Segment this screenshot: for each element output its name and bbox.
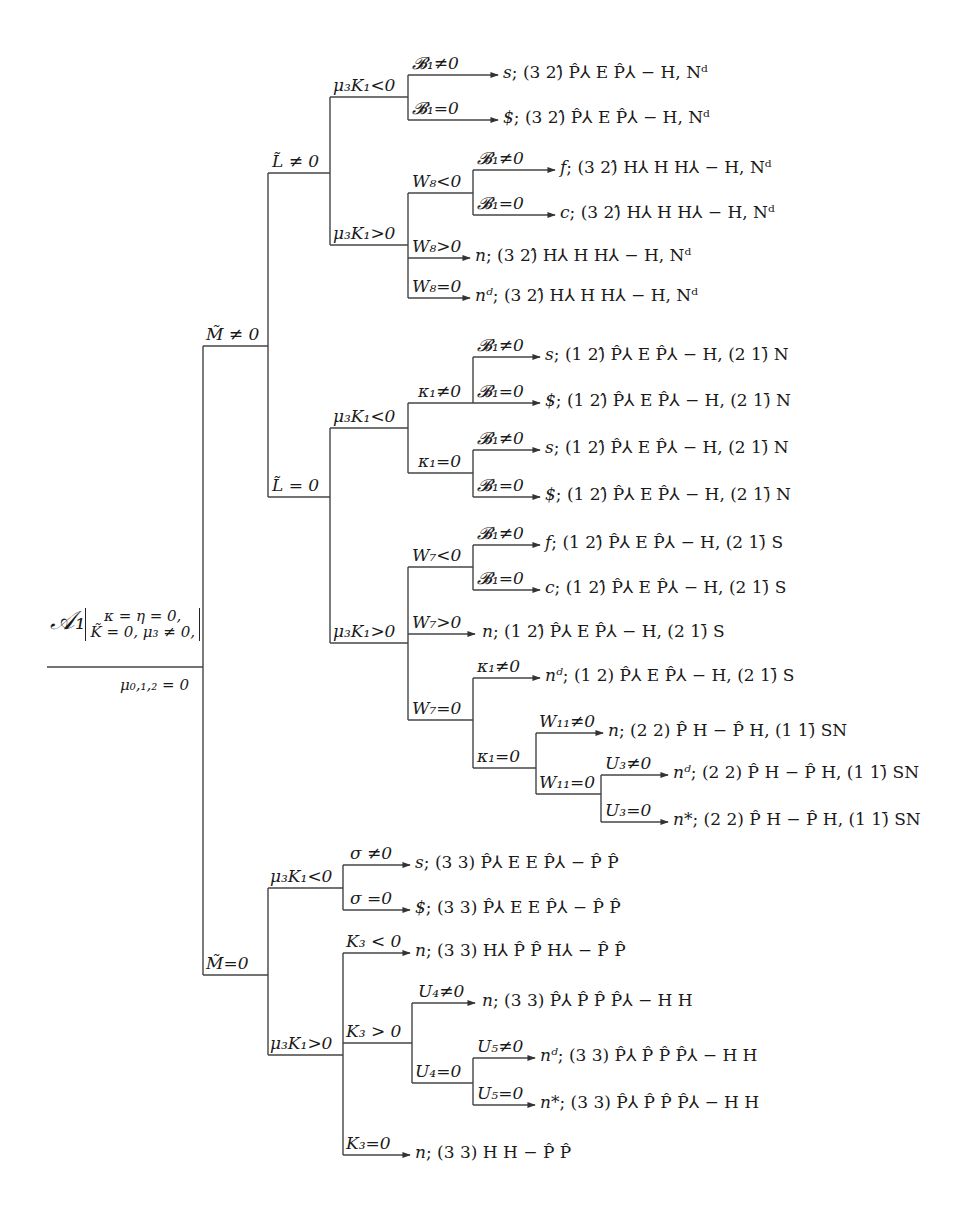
branch-w11-eq0: W₁₁=0 xyxy=(539,774,595,794)
branch-b1-ne0: 𝓑₁≠0 xyxy=(412,55,459,75)
leaf: nᵈ; (1 2) P̂⅄ E P̂⅄ − H, (2 1)̄ S xyxy=(545,667,795,684)
root-conditions: κ = η = 0,K̃ = 0, μ₃ ≠ 0, xyxy=(85,608,200,641)
leaf: f; (3 2)̂ H⅄ H H⅄ − H, Nᵈ xyxy=(560,159,772,176)
branch-k1-eq0: κ₁=0 xyxy=(477,748,520,768)
branch-w8-eq: W₈=0 xyxy=(412,278,461,298)
leaf: n; (3 3) H H − P̂ P̂ xyxy=(415,1144,571,1161)
branch-u5-ne0: U₅≠0 xyxy=(477,1038,523,1058)
branch-sigma-eq0: σ =0 xyxy=(350,890,392,910)
branch-b1-eq0: 𝓑₁=0 xyxy=(477,195,524,215)
branch-w7-eq: W₇=0 xyxy=(412,700,461,720)
branch-m-eq0: M̃=0 xyxy=(206,955,248,975)
branch-b1-ne0: 𝓑₁≠0 xyxy=(477,430,524,450)
branch-b1-eq0: 𝓑₁=0 xyxy=(412,100,459,120)
branch-k3-gt: K₃ > 0 xyxy=(346,1023,401,1043)
branch-mk-lt: μ₃K₁<0 xyxy=(333,408,395,428)
leaf: f; (1 2)̂ P̂⅄ E P̂⅄ − H, (2 1)̄ S xyxy=(545,534,783,551)
branch-k3-eq: K₃=0 xyxy=(346,1135,391,1155)
branch-u5-eq0: U₅=0 xyxy=(477,1085,523,1105)
branch-mk-lt: μ₃K₁<0 xyxy=(270,868,332,888)
branch-w11-ne0: W₁₁≠0 xyxy=(539,713,595,733)
leaf: n; (1 2)̂ P̂⅄ E P̂⅄ − H, (2 1)̄ S xyxy=(482,623,725,640)
branch-mk-gt: μ₃K₁>0 xyxy=(333,623,395,643)
leaf: s; (3 3) P̂⅄ E E P̂⅄ − P̂ P̂ xyxy=(415,854,619,871)
branch-u4-eq0: U₄=0 xyxy=(415,1063,461,1083)
branch-b1-ne0: 𝓑₁≠0 xyxy=(477,337,524,357)
branch-l-eq0: L̃ = 0 xyxy=(272,477,319,497)
leaf: n; (2 2) P̂ H − P̂ H, (1 1)̄ SN xyxy=(608,722,847,739)
leaf: s; (1 2)̂ P̂⅄ E P̂⅄ − H, (2 1)̄ N xyxy=(545,346,789,363)
branch-k1-ne0: κ₁≠0 xyxy=(418,383,461,403)
root-condition-2: K̃ = 0, μ₃ ≠ 0, xyxy=(90,623,195,641)
branch-mk-gt: μ₃K₁>0 xyxy=(333,225,395,245)
leaf: n; (3 3) H⅄ P̂ P̂ H⅄ − P̂ P̂ xyxy=(415,942,626,959)
branch-mk-lt: μ₃K₁<0 xyxy=(333,77,395,97)
branch-u3-ne0: U₃≠0 xyxy=(605,755,651,775)
branch-w7-lt: W₇<0 xyxy=(412,547,461,567)
root-symbol: 𝒜₁ xyxy=(50,605,85,635)
root-condition-1: κ = η = 0, xyxy=(104,607,181,625)
branch-w8-lt: W₈<0 xyxy=(412,173,461,193)
root-subcondition: μ₀,₁,₂ = 0 xyxy=(120,676,189,694)
branch-b1-ne0: 𝓑₁≠0 xyxy=(477,525,524,545)
leaf: s; (1 2)̂ P̂⅄ E P̂⅄ − H, (2 1)̄ N xyxy=(545,439,789,456)
leaf: nᵈ; (3 3) P̂⅄ P̂ P̂ P̂⅄ − H H xyxy=(540,1047,757,1064)
root-node: 𝒜₁κ = η = 0,K̃ = 0, μ₃ ≠ 0, xyxy=(50,605,200,641)
branch-l-ne0: L̃ ≠ 0 xyxy=(272,153,319,173)
leaf: nᵈ; (2 2) P̂ H − P̂ H, (1 1)̄ SN xyxy=(673,764,919,781)
leaf: n; (3 2)̂ H⅄ H H⅄ − H, Nᵈ xyxy=(475,247,691,264)
branch-k1-eq0: κ₁=0 xyxy=(418,453,461,473)
branch-u4-ne0: U₄≠0 xyxy=(418,983,464,1003)
leaf: $; (3 3) P̂⅄ E E P̂⅄ − P̂ P̂ xyxy=(415,899,621,916)
branch-w7-gt: W₇>0 xyxy=(412,614,461,634)
branch-b1-ne0: 𝓑₁≠0 xyxy=(477,150,524,170)
leaf: n*; (3 3) P̂⅄ P̂ P̂ P̂⅄ − H H xyxy=(540,1094,759,1111)
branch-b1-eq0: 𝓑₁=0 xyxy=(477,477,524,497)
branch-u3-eq0: U₃=0 xyxy=(605,802,651,822)
leaf: $; (3 2)̂ P̂⅄ E P̂⅄ − H, Nᵈ xyxy=(503,109,710,126)
leaf: n*; (2 2) P̂ H − P̂ H, (1 1)̄ SN xyxy=(673,811,921,828)
leaf: c; (1 2)̂ P̂⅄ E P̂⅄ − H, (2 1)̄ S xyxy=(545,579,786,596)
branch-b1-eq0: 𝓑₁=0 xyxy=(477,383,524,403)
branch-b1-eq0: 𝓑₁=0 xyxy=(477,570,524,590)
branch-mk-gt: μ₃K₁>0 xyxy=(270,1035,332,1055)
branch-k3-lt: K₃ < 0 xyxy=(346,933,401,953)
tree-lines xyxy=(0,0,975,1206)
leaf: nᵈ; (3 2)̂ H⅄ H H⅄ − H, Nᵈ xyxy=(475,287,698,304)
leaf: $; (1 2)̂ P̂⅄ E P̂⅄ − H, (2 1)̄ N xyxy=(545,392,791,409)
decision-tree-diagram: 𝒜₁κ = η = 0,K̃ = 0, μ₃ ≠ 0, μ₀,₁,₂ = 0 M… xyxy=(0,0,975,1206)
branch-k1-ne0: κ₁≠0 xyxy=(477,658,520,678)
leaf: n; (3 3) P̂⅄ P̂ P̂ P̂⅄ − H H xyxy=(482,992,693,1009)
branch-m-ne0: M̃ ≠ 0 xyxy=(206,326,259,346)
leaf: c; (3 2)̂ H⅄ H H⅄ − H, Nᵈ xyxy=(560,204,775,221)
branch-w8-gt: W₈>0 xyxy=(412,238,461,258)
leaf: $; (1 2)̂ P̂⅄ E P̂⅄ − H, (2 1)̄ N xyxy=(545,486,791,503)
branch-sigma-ne0: σ ≠0 xyxy=(350,845,392,865)
leaf: s; (3 2)̂ P̂⅄ E P̂⅄ − H, Nᵈ xyxy=(503,64,708,81)
